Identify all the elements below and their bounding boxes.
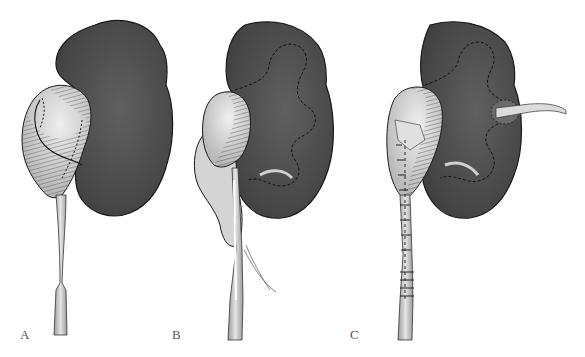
panel-label-c: C bbox=[350, 327, 359, 343]
panel-a bbox=[22, 21, 173, 335]
ureter-c bbox=[398, 195, 413, 340]
panel-label-b: B bbox=[172, 327, 181, 343]
panel-label-a: A bbox=[20, 327, 29, 343]
ureter-a bbox=[54, 195, 67, 335]
nephrostomy-tube bbox=[491, 100, 566, 124]
pyeloplasty-illustration bbox=[0, 0, 585, 357]
panel-c bbox=[387, 22, 566, 340]
panel-b bbox=[194, 22, 333, 340]
